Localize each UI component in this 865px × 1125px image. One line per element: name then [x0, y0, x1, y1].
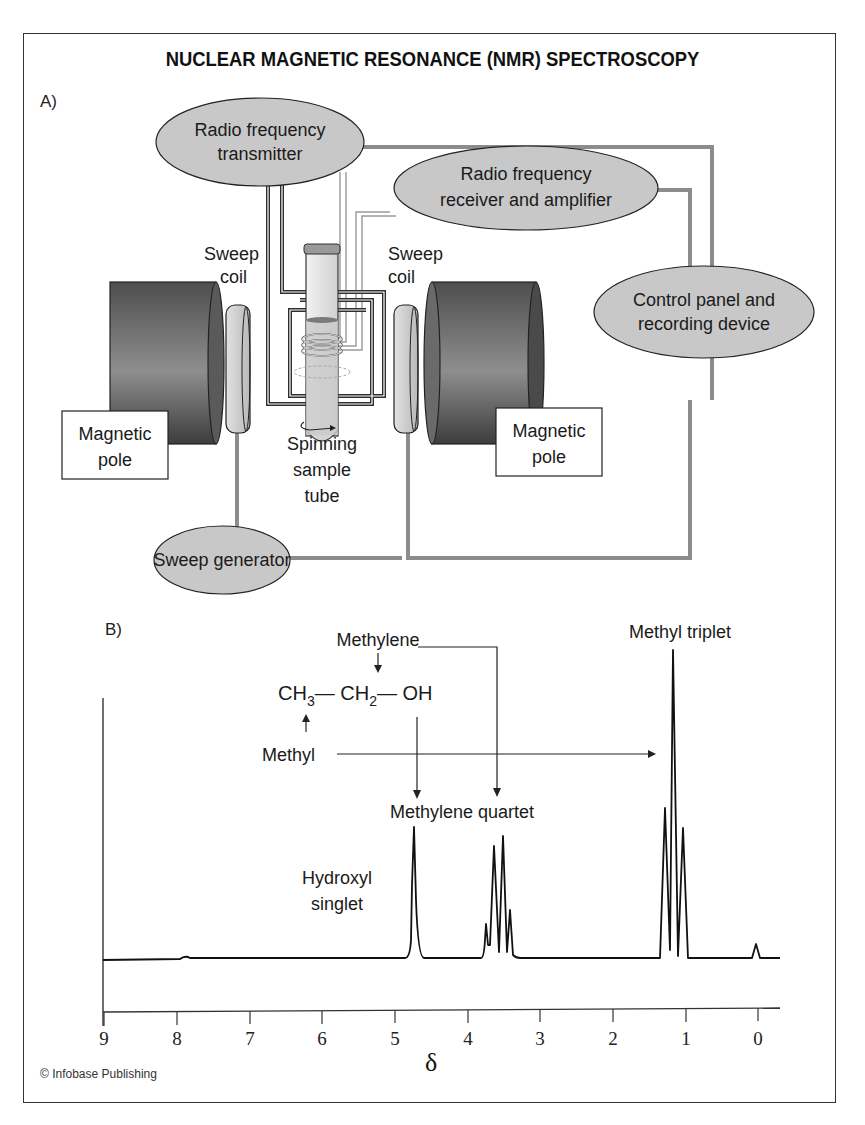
- panel-b-label: B): [105, 620, 122, 640]
- svg-text:coil: coil: [220, 267, 247, 287]
- svg-text:Control panel and: Control panel and: [633, 290, 775, 310]
- svg-text:recording device: recording device: [638, 314, 770, 334]
- sweep-generator: Sweep generator: [153, 526, 290, 594]
- control-panel-recording-device: Control panel and recording device: [594, 266, 814, 358]
- sweep-coil-right: [394, 305, 418, 433]
- sweep-coil-left: [226, 305, 250, 433]
- sweep-coil-right-label: Sweep: [388, 244, 443, 264]
- nmr-apparatus-diagram: Magnetic pole Magnetic pole Sweep coil S…: [0, 0, 865, 620]
- x-axis-label-delta: δ: [425, 1048, 437, 1078]
- svg-text:Sweep generator: Sweep generator: [153, 550, 290, 570]
- x-tick-label: 7: [240, 1028, 260, 1050]
- svg-text:tube: tube: [304, 486, 339, 506]
- x-tick-label: 5: [385, 1028, 405, 1050]
- svg-text:Radio frequency: Radio frequency: [194, 120, 325, 140]
- x-tick-label: 3: [530, 1028, 550, 1050]
- svg-text:pole: pole: [532, 447, 566, 467]
- rf-transmitter: Radio frequency transmitter: [156, 98, 364, 186]
- x-tick-label: 1: [676, 1028, 696, 1050]
- svg-text:coil: coil: [388, 267, 415, 287]
- svg-text:Magnetic: Magnetic: [512, 421, 585, 441]
- x-tick-label: 4: [458, 1028, 478, 1050]
- svg-text:Magnetic: Magnetic: [78, 424, 151, 444]
- svg-text:Spinning: Spinning: [287, 434, 357, 454]
- sample-tube-label: Spinning sample tube: [287, 434, 357, 506]
- svg-text:Radio frequency: Radio frequency: [460, 164, 591, 184]
- copyright-notice: © Infobase Publishing: [40, 1067, 157, 1081]
- x-tick-label: 0: [748, 1028, 768, 1050]
- svg-text:pole: pole: [98, 450, 132, 470]
- svg-text:receiver and amplifier: receiver and amplifier: [440, 190, 612, 210]
- rf-receiver-amplifier: Radio frequency receiver and amplifier: [394, 146, 658, 230]
- magnetic-pole-right-label: Magnetic pole: [496, 408, 602, 476]
- x-tick-label: 9: [94, 1028, 114, 1050]
- x-tick-label: 6: [312, 1028, 332, 1050]
- sweep-coil-left-label: Sweep: [204, 244, 259, 264]
- svg-text:sample: sample: [293, 460, 351, 480]
- x-tick-label: 2: [603, 1028, 623, 1050]
- x-tick-label: 8: [167, 1028, 187, 1050]
- magnetic-pole-left-label: Magnetic pole: [62, 411, 168, 479]
- svg-text:transmitter: transmitter: [217, 144, 302, 164]
